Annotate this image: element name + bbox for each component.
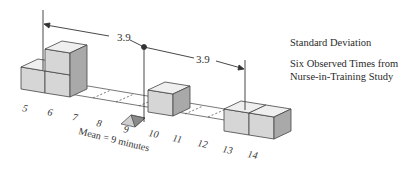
svg-text:9: 9 — [123, 123, 130, 135]
right-sd-label: 3.9 — [196, 53, 210, 65]
svg-text:10: 10 — [148, 127, 160, 140]
legend-subtitle: Six Observed Times from Nurse-in-Trainin… — [290, 57, 408, 83]
left-sd-label: 3.9 — [117, 31, 131, 43]
cube-stack-5-6 — [21, 41, 87, 97]
svg-text:11: 11 — [172, 132, 183, 145]
mean-label: Mean = 9 minutes — [78, 125, 151, 153]
svg-text:5: 5 — [22, 102, 29, 114]
svg-text:7: 7 — [72, 111, 80, 123]
tick-labels: 5 6 7 8 9 10 11 12 13 14 — [22, 102, 259, 161]
legend: Standard Deviation Six Observed Times fr… — [290, 36, 408, 83]
cube-13-14 — [224, 101, 291, 139]
cube-10 — [148, 82, 190, 116]
svg-text:6: 6 — [47, 106, 54, 118]
legend-title: Standard Deviation — [290, 36, 408, 49]
svg-text:14: 14 — [247, 148, 259, 161]
mean-point — [142, 45, 147, 50]
standard-deviation-diagram: 3.9 3.9 5 6 7 8 9 10 11 12 13 14 Mean = … — [0, 0, 410, 175]
svg-text:12: 12 — [197, 137, 209, 150]
svg-text:8: 8 — [96, 117, 103, 129]
svg-text:13: 13 — [222, 143, 234, 156]
